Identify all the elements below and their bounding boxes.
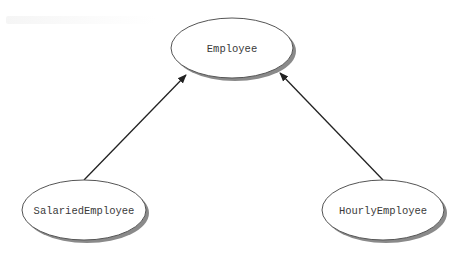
edge-salaried-to-employee [84,75,186,180]
node-label-employee: Employee [207,43,257,55]
node-employee[interactable]: Employee [171,18,296,81]
inheritance-diagram: Employee SalariedEmployee HourlyEmployee [0,0,463,258]
node-label-salaried-employee: SalariedEmployee [34,205,135,217]
node-hourly-employee[interactable]: HourlyEmployee [322,180,447,243]
node-salaried-employee[interactable]: SalariedEmployee [22,180,149,243]
edge-hourly-to-employee [280,73,383,180]
node-label-hourly-employee: HourlyEmployee [339,205,427,217]
